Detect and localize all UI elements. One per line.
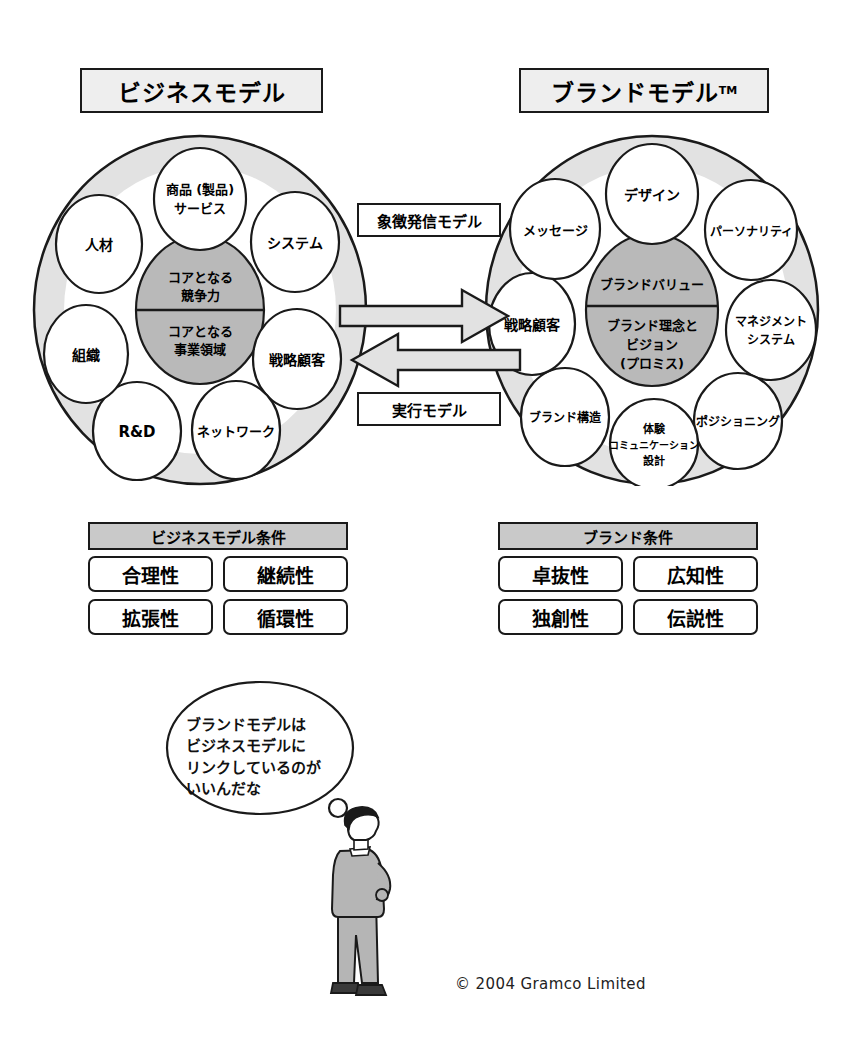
brand-node-message[interactable]: メッセージ xyxy=(510,179,600,279)
business-model-conditions: ビジネスモデル条件 合理性 継続性 拡張性 循環性 xyxy=(88,522,348,635)
node-label-line1: R&D xyxy=(118,423,155,441)
thought-line-1: ブランドモデルは xyxy=(186,715,376,736)
condition-cell-legendariness[interactable]: 伝説性 xyxy=(633,599,758,635)
brand-node-positioning[interactable]: ポジショニング xyxy=(694,373,782,469)
node-label-line2: コミュニケーション xyxy=(609,440,699,451)
arrow-label-top-text: 象徴発信モデル xyxy=(377,210,482,231)
thought-line-3: リンクしているのが xyxy=(186,758,376,779)
condition-cell-originality[interactable]: 独創性 xyxy=(498,599,623,635)
arrow-right xyxy=(340,290,508,342)
condition-cell-circularity[interactable]: 循環性 xyxy=(223,599,348,635)
trademark-symbol: TM xyxy=(719,84,737,97)
node-label-line1: システム xyxy=(267,235,323,251)
business-core: コアとなる 競争力 コアとなる 事業領域 xyxy=(136,236,264,384)
condition-row: 卓抜性 広知性 xyxy=(498,556,758,592)
business-core-bottom-line2: 事業領域 xyxy=(174,342,226,357)
brand-node-management-system[interactable]: マネジメント システム xyxy=(726,280,816,380)
brand-node-design[interactable]: デザイン xyxy=(606,144,698,244)
brand-conditions-title-text: ブランド条件 xyxy=(583,526,673,547)
business-node-system[interactable]: システム xyxy=(251,192,339,292)
person-illustration xyxy=(300,805,420,1005)
business-core-bottom-line1: コアとなる xyxy=(168,324,233,339)
brand-node-experience-communication-design[interactable]: 体験 コミュニケーション 設計 xyxy=(609,399,699,486)
node-label-line1: 戦略顧客 xyxy=(269,352,326,368)
diagram-canvas: ビジネスモデル ブランドモデルTM コアとなる 競争力 コアとなる 事業領域 商… xyxy=(0,0,849,1060)
condition-cell-awareness[interactable]: 広知性 xyxy=(633,556,758,592)
brand-core-bottom-line1: ブランド理念と xyxy=(607,318,698,333)
condition-cell-continuity[interactable]: 継続性 xyxy=(223,556,348,592)
brand-node-personality[interactable]: パーソナリティ xyxy=(705,180,797,280)
condition-row: 独創性 伝説性 xyxy=(498,599,758,635)
node-label-line1: マネジメント xyxy=(735,315,807,329)
header-brand-model: ブランドモデルTM xyxy=(519,68,769,113)
node-circle[interactable] xyxy=(726,280,816,380)
node-label-line1: 組織 xyxy=(72,347,100,363)
header-brand-model-label: ブランドモデル xyxy=(551,74,719,108)
person-hand xyxy=(376,889,388,901)
brand-model-wheel: ブランドバリュー ブランド理念と ビジョン (プロミス) デザイン パーソナリテ… xyxy=(482,134,822,486)
person-shoe-left xyxy=(331,983,360,993)
thought-bubble-text: ブランドモデルは ビジネスモデルに リンクしているのが いいんだな xyxy=(186,715,376,800)
node-label-line1: ネットワーク xyxy=(197,424,275,439)
header-business-model: ビジネスモデル xyxy=(80,68,323,113)
business-conditions-title: ビジネスモデル条件 xyxy=(88,522,348,550)
business-node-human-resources[interactable]: 人材 xyxy=(56,195,142,293)
arrow-label-symbolic-transmission-model: 象徴発信モデル xyxy=(357,203,501,237)
copyright-footer: © 2004 Gramco Limited xyxy=(455,975,646,993)
person-shoe-right xyxy=(356,985,386,995)
thought-line-4: いいんだな xyxy=(186,779,376,800)
arrow-label-bottom-text: 実行モデル xyxy=(392,399,467,420)
brand-node-brand-structure[interactable]: ブランド構造 xyxy=(521,368,609,466)
node-label-line1: メッセージ xyxy=(523,223,588,238)
node-label-line1: 商品 (製品) xyxy=(166,182,234,197)
condition-cell-expandability[interactable]: 拡張性 xyxy=(88,599,213,635)
thought-line-2: ビジネスモデルに xyxy=(186,736,376,757)
person-jacket xyxy=(332,850,384,917)
condition-row: 拡張性 循環性 xyxy=(88,599,348,635)
business-node-network[interactable]: ネットワーク xyxy=(192,381,280,479)
arrow-left xyxy=(352,334,520,386)
brand-core-bottom-line3: (プロミス) xyxy=(620,356,684,371)
arrow-label-execution-model: 実行モデル xyxy=(357,392,501,426)
business-node-product-service[interactable]: 商品 (製品) サービス xyxy=(154,148,246,250)
business-conditions-title-text: ビジネスモデル条件 xyxy=(151,526,286,547)
brand-core-top-line1: ブランドバリュー xyxy=(600,277,704,292)
node-label-line1: デザイン xyxy=(624,187,680,203)
node-label-line2: サービス xyxy=(174,201,226,216)
node-label-line1: ポジショニング xyxy=(696,414,780,429)
node-label-line1: 体験 xyxy=(643,422,666,436)
business-core-top-line2: 競争力 xyxy=(181,288,220,303)
node-label-line3: 設計 xyxy=(643,454,665,468)
node-label-line2: システム xyxy=(747,333,795,347)
node-label-line1: パーソナリティ xyxy=(710,225,793,239)
node-label-line1: ブランド構造 xyxy=(529,410,602,425)
brand-conditions-title: ブランド条件 xyxy=(498,522,758,550)
business-core-top-line1: コアとなる xyxy=(168,270,233,285)
brand-conditions: ブランド条件 卓抜性 広知性 独創性 伝説性 xyxy=(498,522,758,635)
business-node-organization[interactable]: 組織 xyxy=(44,305,128,403)
business-model-wheel: コアとなる 競争力 コアとなる 事業領域 商品 (製品) サービス システム 戦… xyxy=(30,134,370,486)
header-business-model-label: ビジネスモデル xyxy=(118,74,286,108)
brand-core: ブランドバリュー ブランド理念と ビジョン (プロミス) xyxy=(586,234,718,386)
condition-cell-excellence[interactable]: 卓抜性 xyxy=(498,556,623,592)
brand-core-bottom-line2: ビジョン xyxy=(626,337,678,352)
condition-cell-rationality[interactable]: 合理性 xyxy=(88,556,213,592)
node-circle[interactable] xyxy=(154,148,246,250)
model-exchange-arrows xyxy=(330,280,530,390)
node-label-line1: 人材 xyxy=(85,237,113,253)
condition-row: 合理性 継続性 xyxy=(88,556,348,592)
